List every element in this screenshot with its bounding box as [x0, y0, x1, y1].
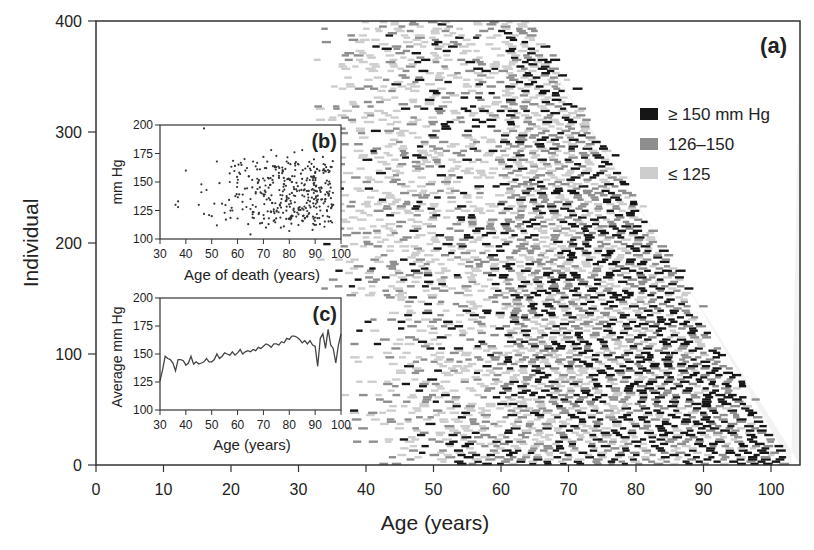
legend-label-high: ≥ 150 mm Hg: [668, 105, 770, 124]
legend-swatch-low: [640, 167, 658, 179]
svg-text:60: 60: [492, 481, 510, 498]
svg-text:0: 0: [92, 481, 101, 498]
panel-label-b: (b): [311, 130, 337, 152]
measurement-raster: [314, 21, 800, 465]
svg-text:20: 20: [222, 481, 240, 498]
svg-text:60: 60: [231, 418, 245, 432]
legend-swatch-high: [640, 108, 658, 120]
legend: ≥ 150 mm Hg 126–150 ≤ 125: [640, 105, 770, 184]
inset-b-xlabel: Age of death (years): [184, 266, 320, 283]
svg-text:40: 40: [357, 481, 375, 498]
inset-c-ylabel: Average mm Hg: [109, 307, 125, 408]
svg-text:100: 100: [55, 346, 82, 363]
inset-c-xlabel: Age (years): [213, 436, 291, 453]
svg-text:100: 100: [758, 481, 785, 498]
svg-text:300: 300: [55, 124, 82, 141]
svg-text:90: 90: [308, 418, 322, 432]
svg-text:175: 175: [133, 147, 153, 161]
svg-text:40: 40: [179, 247, 193, 261]
svg-text:50: 50: [205, 247, 219, 261]
legend-label-low: ≤ 125: [668, 165, 710, 184]
legend-swatch-mid: [640, 138, 658, 150]
svg-text:150: 150: [133, 175, 153, 189]
svg-text:50: 50: [425, 481, 443, 498]
svg-text:70: 70: [560, 481, 578, 498]
svg-text:100: 100: [331, 418, 351, 432]
svg-text:80: 80: [283, 247, 297, 261]
svg-text:200: 200: [133, 291, 153, 305]
panel-label-c: (c): [313, 303, 337, 325]
svg-text:10: 10: [155, 481, 173, 498]
svg-text:100: 100: [133, 232, 153, 246]
svg-text:70: 70: [257, 247, 271, 261]
svg-text:30: 30: [290, 481, 308, 498]
chart-figure: 0102030405060708090100 0100200300400 Age…: [0, 0, 814, 550]
svg-text:125: 125: [133, 204, 153, 218]
svg-text:200: 200: [55, 235, 82, 252]
y-axis-label: Individual: [19, 199, 42, 288]
panel-c: 30405060708090100100125150175200 Age (ye…: [109, 291, 351, 453]
svg-text:50: 50: [205, 418, 219, 432]
svg-text:30: 30: [153, 418, 167, 432]
svg-text:90: 90: [308, 247, 322, 261]
svg-text:90: 90: [695, 481, 713, 498]
y-axis-ticks: 0100200300400: [55, 13, 96, 474]
svg-text:125: 125: [133, 375, 153, 389]
svg-text:30: 30: [153, 247, 167, 261]
svg-text:200: 200: [133, 118, 153, 132]
svg-text:175: 175: [133, 319, 153, 333]
panel-label-a: (a): [760, 33, 787, 58]
svg-text:80: 80: [283, 418, 297, 432]
svg-text:150: 150: [133, 347, 153, 361]
inset-b-ylabel: mm Hg: [109, 159, 125, 204]
svg-text:100: 100: [331, 247, 351, 261]
panel-b: 30405060708090100100125150175200 Age of …: [109, 118, 351, 283]
svg-text:100: 100: [133, 403, 153, 417]
panel-a: 0102030405060708090100 0100200300400 Age…: [19, 13, 800, 534]
x-axis-ticks: 0102030405060708090100: [92, 465, 785, 498]
svg-text:80: 80: [627, 481, 645, 498]
svg-text:70: 70: [257, 418, 271, 432]
x-axis-label: Age (years): [381, 511, 490, 534]
svg-text:60: 60: [231, 247, 245, 261]
svg-text:40: 40: [179, 418, 193, 432]
svg-text:400: 400: [55, 13, 82, 30]
legend-label-mid: 126–150: [668, 135, 734, 154]
svg-text:0: 0: [73, 457, 82, 474]
